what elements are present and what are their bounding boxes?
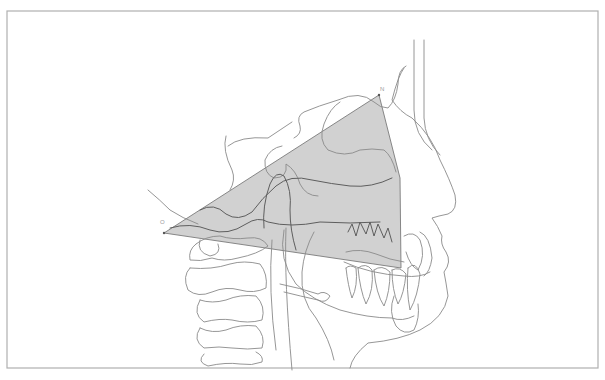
landmark-label-o: O bbox=[160, 219, 165, 225]
landmark-point-n bbox=[378, 94, 380, 96]
condyle-outline bbox=[199, 240, 219, 256]
tracing-canvas bbox=[0, 0, 605, 380]
mastoid bbox=[225, 136, 234, 190]
cervical-vertebrae bbox=[185, 236, 268, 366]
nasion-reference-lines bbox=[414, 40, 440, 155]
parietal-line bbox=[228, 122, 292, 146]
landmark-point-o bbox=[163, 232, 165, 234]
cephalometric-figure: O N bbox=[0, 0, 605, 380]
pharyngeal-airway-anterior bbox=[271, 240, 276, 350]
landmark-label-n: N bbox=[380, 86, 384, 92]
